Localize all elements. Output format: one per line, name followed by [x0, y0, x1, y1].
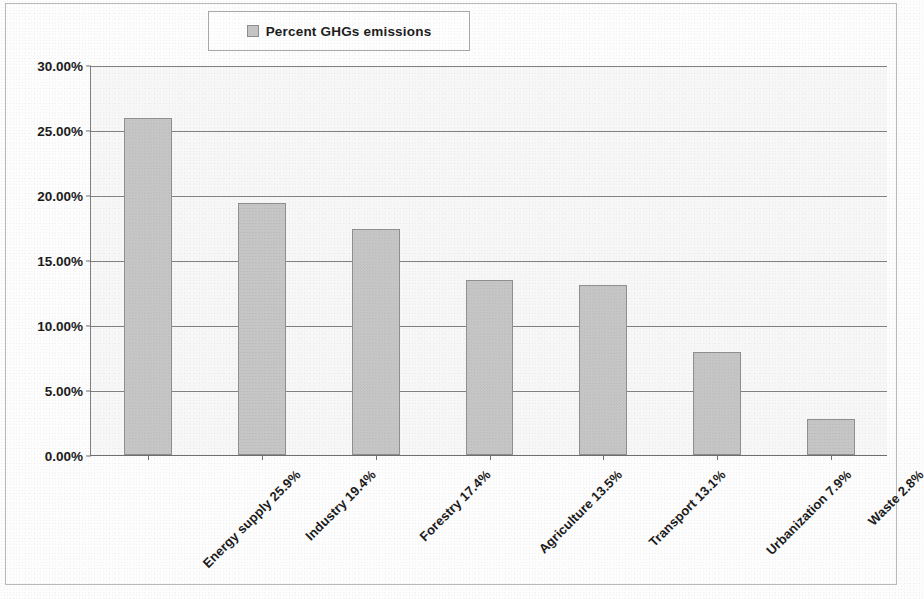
y-tick-mark [86, 66, 91, 67]
legend-swatch-icon [247, 25, 259, 37]
y-tick-mark [86, 326, 91, 327]
bar-texture [694, 353, 740, 454]
bar [466, 280, 514, 456]
bar [807, 419, 855, 455]
gridline [91, 261, 887, 262]
bar [579, 285, 627, 455]
plot-area: 0.00%5.00%10.00%15.00%20.00%25.00%30.00% [90, 66, 887, 456]
bar [124, 118, 172, 455]
y-axis-tick-label: 20.00% [37, 189, 83, 204]
x-axis-category-label: Agriculture 13.5% [535, 467, 624, 556]
bar-texture [125, 119, 171, 454]
y-tick-mark [86, 261, 91, 262]
bar-texture [239, 204, 285, 454]
x-tick-mark [490, 455, 491, 460]
chart-legend: Percent GHGs emissions [208, 11, 470, 51]
gridline [91, 196, 887, 197]
x-tick-mark [148, 455, 149, 460]
chart-frame: Percent GHGs emissions 0.00%5.00%10.00%1… [5, 3, 897, 585]
x-tick-mark [831, 455, 832, 460]
y-tick-mark [86, 131, 91, 132]
bar-texture [353, 230, 399, 454]
gridline [91, 66, 887, 67]
chart-page: Percent GHGs emissions 0.00%5.00%10.00%1… [0, 0, 924, 599]
legend-series-label: Percent GHGs emissions [266, 24, 432, 39]
x-tick-mark [603, 455, 604, 460]
y-axis-tick-label: 25.00% [37, 124, 83, 139]
y-tick-mark [86, 196, 91, 197]
bar-texture [580, 286, 626, 454]
x-axis-category-label: Industry 19.4% [302, 467, 378, 543]
y-tick-mark [86, 456, 91, 457]
y-axis-tick-label: 5.00% [45, 384, 83, 399]
x-axis-category-label: Waste 2.8% [865, 467, 924, 529]
bar-texture [808, 420, 854, 454]
bar [693, 352, 741, 455]
y-axis-tick-label: 10.00% [37, 319, 83, 334]
y-axis-tick-label: 0.00% [45, 449, 83, 464]
x-tick-mark [717, 455, 718, 460]
y-axis-tick-label: 15.00% [37, 254, 83, 269]
x-axis-category-label: Forestry 17.4% [416, 467, 493, 544]
x-axis-category-label: Urbanization 7.9% [763, 467, 854, 558]
y-axis-tick-label: 30.00% [37, 59, 83, 74]
gridline [91, 131, 887, 132]
x-tick-mark [262, 455, 263, 460]
bar-texture [467, 281, 513, 455]
x-axis-category-label: Energy supply 25.9% [200, 467, 304, 571]
y-tick-mark [86, 391, 91, 392]
x-axis-category-label: Transport 13.1% [646, 467, 729, 550]
x-tick-mark [376, 455, 377, 460]
bar [352, 229, 400, 455]
bar [238, 203, 286, 455]
